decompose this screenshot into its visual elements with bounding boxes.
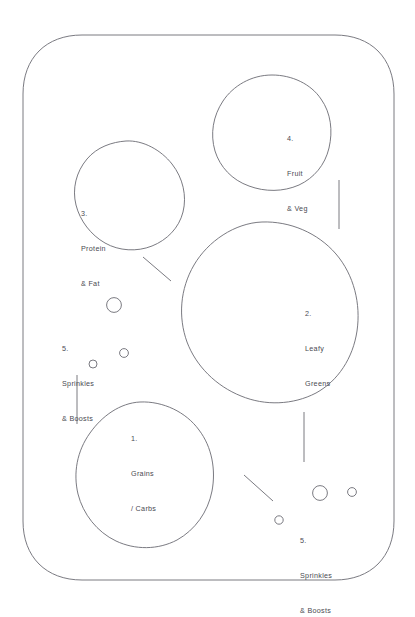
sprinkle-circle-small-right — [275, 516, 283, 524]
zone-label-protein-fat: 3. Protein & Fat — [81, 185, 106, 313]
zone-title-line1-grains-carbs: Grains — [131, 468, 156, 480]
sprinkles-title-line1-right: Sprinkles — [300, 570, 332, 582]
sprinkle-circle-medium-left — [120, 349, 129, 358]
leafy-greens-blob — [182, 222, 359, 403]
zone-title-line2-protein-fat: & Fat — [81, 278, 106, 290]
sprinkles-number-left: 5. — [62, 343, 94, 355]
zone-label-leafy-greens: 2. Leafy Greens — [305, 285, 330, 413]
zone-title-line2-fruit-veg: & Veg — [287, 203, 308, 215]
leader-line-diagonal-protein — [143, 257, 171, 281]
zone-title-line1-fruit-veg: Fruit — [287, 168, 308, 180]
sprinkles-title-line1-left: Sprinkles — [62, 378, 94, 390]
zone-title-line2-leafy-greens: Greens — [305, 378, 330, 390]
sprinkles-label-left: 5. Sprinkles & Boosts — [62, 320, 94, 448]
zone-number-protein-fat: 3. — [81, 208, 106, 220]
sprinkles-title-line2-right: & Boosts — [300, 605, 332, 617]
zone-number-leafy-greens: 2. — [305, 308, 330, 320]
sprinkle-circle-large-right — [313, 486, 328, 501]
sprinkles-label-right: 5. Sprinkles & Boosts — [300, 512, 332, 617]
fruit-veg-blob — [213, 75, 331, 190]
sprinkles-number-right: 5. — [300, 535, 332, 547]
zone-title-line2-grains-carbs: / Carbs — [131, 503, 156, 515]
leader-line-diagonal-grains — [244, 475, 273, 501]
plate-outline — [23, 35, 394, 580]
sprinkle-circle-medium-right — [348, 488, 357, 497]
zone-title-line1-leafy-greens: Leafy — [305, 343, 330, 355]
zone-number-fruit-veg: 4. — [287, 133, 308, 145]
sprinkle-circle-large-left — [107, 298, 122, 313]
zone-label-fruit-veg: 4. Fruit & Veg — [287, 110, 308, 238]
zone-number-grains-carbs: 1. — [131, 433, 156, 445]
zone-label-grains-carbs: 1. Grains / Carbs — [131, 410, 156, 538]
zone-title-line1-protein-fat: Protein — [81, 243, 106, 255]
sprinkles-title-line2-left: & Boosts — [62, 413, 94, 425]
